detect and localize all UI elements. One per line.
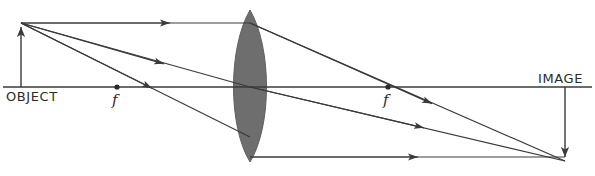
optics-ray-diagram-canvas: OBJECT IMAGE f f (0, 0, 595, 176)
converging-lens (234, 10, 267, 162)
parallel-ray-refracted (250, 23, 565, 161)
focal-ray-incident (21, 23, 250, 137)
center-ray (21, 23, 565, 161)
focal-length-label-left: f (111, 91, 120, 109)
ray-diagram-figure: OBJECT IMAGE f f (0, 0, 595, 176)
object-label: OBJECT (6, 89, 58, 104)
lens-shape (234, 10, 267, 162)
center-ray-exit (250, 87, 565, 161)
focal-point-left-marker (114, 84, 119, 89)
center-ray-incident (21, 23, 250, 87)
parallel-ray (21, 23, 565, 161)
focal-point-right-marker (385, 84, 390, 89)
focal-ray (21, 23, 565, 157)
focal-length-label-right: f (382, 91, 391, 109)
image-label: IMAGE (538, 71, 583, 86)
